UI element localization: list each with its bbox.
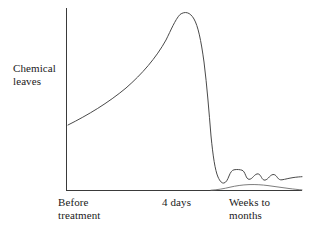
y-axis-label: Chemical leaves xyxy=(13,62,65,88)
figure-container: Chemical leaves Before treatment 4 days … xyxy=(0,0,328,234)
baseline-drift-curve xyxy=(211,185,302,191)
chemical-leaves-curve xyxy=(68,13,302,184)
x-tick-label-before-treatment: Before treatment xyxy=(58,196,132,222)
x-tick-label-4-days: 4 days xyxy=(162,196,216,209)
x-tick-label-weeks-to-months: Weeks to months xyxy=(229,196,303,222)
